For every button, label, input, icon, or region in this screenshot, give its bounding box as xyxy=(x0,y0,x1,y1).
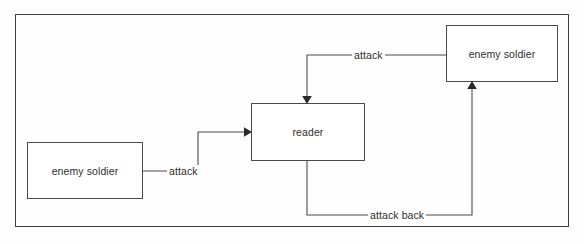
edge-label-top-attack: attack xyxy=(352,49,385,61)
connector-top-attack xyxy=(302,55,446,104)
connector-top-attack-path xyxy=(307,55,446,96)
node-enemy-soldier-right-label: enemy soldier xyxy=(469,48,536,60)
node-reader-label: reader xyxy=(293,126,324,138)
edge-label-attack-back: attack back xyxy=(368,209,426,221)
edge-label-left-attack: attack xyxy=(167,165,200,177)
node-enemy-soldier-right[interactable]: enemy soldier xyxy=(446,25,558,82)
node-enemy-soldier-left-label: enemy soldier xyxy=(52,165,119,177)
node-reader[interactable]: reader xyxy=(251,103,365,161)
node-enemy-soldier-left[interactable]: enemy soldier xyxy=(27,142,143,199)
arrowhead-into-enemy-soldier-right xyxy=(467,81,477,89)
diagram-canvas: enemy soldier reader enemy soldier attac… xyxy=(0,0,584,244)
